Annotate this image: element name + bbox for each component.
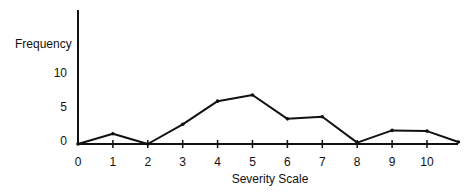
data-point bbox=[457, 140, 461, 144]
x-tick-label: 10 bbox=[420, 155, 434, 169]
data-point bbox=[355, 141, 359, 145]
x-tick-label: 6 bbox=[284, 155, 291, 169]
x-tick-label: 4 bbox=[214, 155, 221, 169]
data-point bbox=[321, 115, 325, 119]
y-ticks: 0510 bbox=[54, 66, 68, 148]
series-line bbox=[78, 95, 458, 144]
y-tick-label: 10 bbox=[54, 66, 68, 80]
data-point bbox=[181, 122, 185, 126]
data-points bbox=[76, 93, 460, 146]
data-point bbox=[425, 129, 429, 133]
x-tick-label: 1 bbox=[110, 155, 117, 169]
axes bbox=[78, 10, 458, 145]
x-tick-label: 5 bbox=[249, 155, 256, 169]
x-tick-label: 2 bbox=[144, 155, 151, 169]
y-tick-label: 5 bbox=[60, 100, 67, 114]
data-point bbox=[146, 142, 150, 146]
x-axis-label: Severity Scale bbox=[232, 172, 309, 186]
data-point bbox=[111, 132, 115, 136]
data-point bbox=[251, 93, 255, 97]
x-tick-label: 7 bbox=[319, 155, 326, 169]
data-point bbox=[76, 142, 80, 146]
y-axis-label: Frequency bbox=[15, 37, 72, 51]
x-tick-label: 3 bbox=[179, 155, 186, 169]
data-point bbox=[286, 117, 290, 121]
x-tick-label: 9 bbox=[389, 155, 396, 169]
line-chart: 012345678910 0510 Frequency Severity Sca… bbox=[0, 0, 474, 193]
data-point bbox=[216, 99, 220, 103]
x-tick-label: 8 bbox=[354, 155, 361, 169]
data-point bbox=[390, 129, 394, 133]
x-tick-label: 0 bbox=[75, 155, 82, 169]
y-tick-label: 0 bbox=[60, 134, 67, 148]
